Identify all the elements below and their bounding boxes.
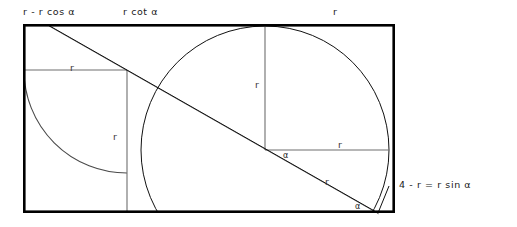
label-left-rect-side: r <box>113 131 117 142</box>
outer-rectangle <box>24 25 393 211</box>
label-left-rect-top: r <box>70 62 74 73</box>
label-right-equation: 4 - r = r sin α <box>399 179 471 190</box>
corner-segment <box>378 186 389 213</box>
label-top-right: r <box>333 6 338 17</box>
label-circle-vertical: r <box>255 79 259 90</box>
label-top-mid: r cot α <box>123 6 158 17</box>
label-top-left: r - r cos α <box>23 6 75 17</box>
label-angle-center: α <box>283 151 288 160</box>
label-circle-horizontal: r <box>338 139 342 150</box>
label-diagonal-lower: r <box>325 176 329 187</box>
geometry-figure: r - r cos α r cot α r r r r r r 4 - r = … <box>0 0 517 227</box>
left-arc-group <box>24 70 127 173</box>
figure-canvas: r - r cos α r cot α r r r r r r 4 - r = … <box>0 0 517 227</box>
label-angle-corner: α <box>355 202 360 211</box>
main-diagonal-shadow <box>49 26 379 214</box>
left-quarter-arc <box>24 70 127 173</box>
